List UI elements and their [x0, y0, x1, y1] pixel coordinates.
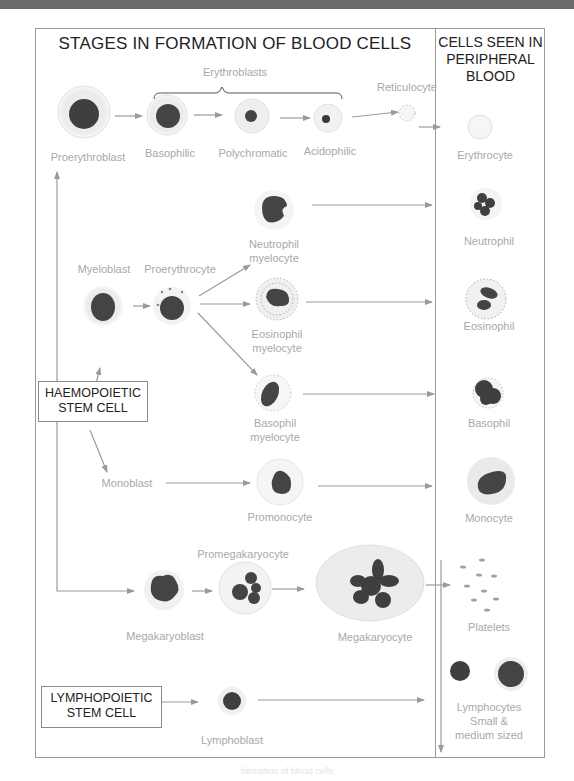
cell-erythrocyte — [468, 115, 492, 139]
label-basophil-myelocyte: Basophil myelocyte — [245, 416, 305, 444]
cell-neutrophil — [470, 188, 502, 220]
label-line: Neutrophil — [244, 237, 304, 251]
label-monoblast: Monoblast — [92, 476, 162, 490]
label-basophil: Basophil — [444, 416, 534, 430]
label-proerythrocyte: Proerythrocyte — [140, 262, 220, 276]
label-eosinophil: Eosinophil — [444, 319, 534, 333]
label-proerythroblast: Proerythroblast — [38, 150, 138, 164]
haemopoietic-stem-cell: HAEMOPOIETIC STEM CELL — [38, 381, 148, 422]
cell-monocyte — [467, 457, 515, 505]
cell-polychromatic-erythroblast — [235, 99, 269, 133]
cell-megakaryocyte — [316, 545, 424, 621]
cell-neutrophil-myelocyte — [254, 190, 294, 230]
label-line: Eosinophil — [247, 327, 307, 341]
label-promegakaryocyte: Promegakaryocyte — [188, 547, 298, 561]
label-promonocyte: Promonocyte — [240, 510, 320, 524]
label-erythrocyte: Erythrocyte — [440, 148, 530, 162]
cell-basophilic-erythroblast — [147, 95, 187, 135]
arrow — [90, 430, 107, 472]
label-lymphocytes: Lymphocytes Small & medium sized — [444, 700, 534, 742]
lymphopoietic-stem-cell: LYMPHOPOIETIC STEM CELL — [41, 686, 162, 728]
label-neutrophil: Neutrophil — [444, 234, 534, 248]
cell-reticulocyte — [399, 105, 415, 121]
cell-medium-lymphocyte — [494, 657, 528, 691]
cell-lymphoblast — [218, 687, 246, 715]
label-acidophilic: Acidophilic — [295, 144, 365, 158]
label-megakaryoblast: Megakaryoblast — [115, 629, 215, 643]
cell-basophil — [473, 378, 503, 408]
label-platelets: Platelets — [444, 620, 534, 634]
label-line: myelocyte — [244, 251, 304, 265]
arrow — [57, 587, 134, 591]
label-neutrophil-myelocyte: Neutrophil myelocyte — [244, 237, 304, 265]
cell-promegakaryocyte — [219, 562, 271, 614]
cell-proerythrocyte — [153, 287, 191, 325]
stem-cell-line: LYMPHOPOIETIC — [46, 691, 157, 706]
label-erythroblasts: Erythroblasts — [160, 65, 310, 79]
label-myeloblast: Myeloblast — [71, 262, 137, 276]
label-basophilic: Basophilic — [135, 146, 205, 160]
label-reticulocyte: Reticulocyte — [362, 80, 452, 94]
cell-proerythroblast — [58, 86, 110, 138]
label-eosinophil-myelocyte: Eosinophil myelocyte — [247, 327, 307, 355]
arrow — [352, 112, 398, 117]
label-line: Small & — [444, 714, 534, 728]
cell-megakaryoblast — [144, 570, 184, 610]
label-megakaryocyte: Megakaryocyte — [325, 630, 425, 644]
stem-cell-line: HAEMOPOIETIC — [43, 386, 143, 401]
figure-caption: formation of blood cells — [0, 766, 574, 776]
cell-promonocyte — [257, 459, 303, 505]
label-line: Lymphocytes — [444, 700, 534, 714]
label-line: myelocyte — [247, 341, 307, 355]
label-line: myelocyte — [245, 430, 305, 444]
cell-acidophilic-erythroblast — [314, 104, 342, 132]
cell-small-lymphocyte — [450, 661, 470, 681]
label-polychromatic: Polychromatic — [208, 146, 298, 160]
cell-basophil-myelocyte — [255, 375, 291, 411]
stem-cell-line: STEM CELL — [46, 706, 157, 721]
label-line: medium sized — [444, 728, 534, 742]
cell-myeloblast — [83, 286, 123, 326]
cell-eosinophil-myelocyte — [256, 278, 298, 320]
cell-platelets — [460, 559, 499, 612]
cell-eosinophil — [466, 279, 506, 319]
label-line: Basophil — [245, 416, 305, 430]
label-lymphoblast: Lymphoblast — [196, 733, 268, 747]
label-monocyte: Monocyte — [444, 511, 534, 525]
erythroblasts-brace — [154, 87, 342, 99]
stem-cell-line: STEM CELL — [43, 401, 143, 416]
